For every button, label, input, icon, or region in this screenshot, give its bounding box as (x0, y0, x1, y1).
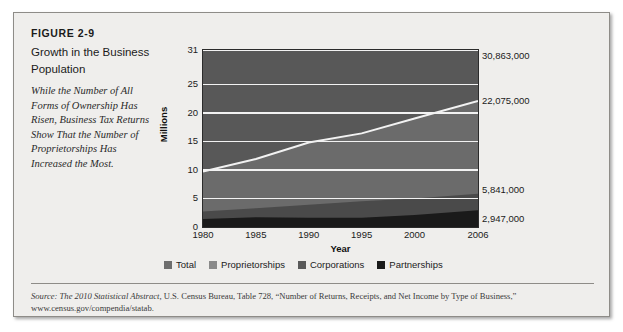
figure-number: FIGURE 2-9 (31, 27, 153, 39)
legend-swatch-icon (209, 261, 217, 269)
value-annotations: 30,863,00022,075,0005,841,0002,947,000 (482, 49, 592, 229)
gridline (203, 49, 478, 51)
x-axis-ticks: 198019851990199520002006 (202, 229, 479, 243)
legend-item[interactable]: Corporations (298, 259, 364, 270)
x-tick-label: 1995 (351, 229, 372, 240)
gridline (203, 84, 478, 86)
footer-divider (31, 283, 594, 284)
plot-area (202, 49, 479, 228)
y-tick-label: 15 (164, 135, 198, 146)
source-note: Source: The 2010 Statistical Abstract, U… (31, 290, 597, 314)
x-tick-label: 1980 (192, 229, 213, 240)
y-tick-label: 5 (164, 192, 198, 203)
x-axis-title: Year (202, 243, 479, 254)
legend-label: Partnerships (389, 259, 442, 270)
figure-subtitle: While the Number of All Forms of Ownersh… (31, 84, 153, 171)
gridline (203, 112, 478, 114)
y-tick-label: 31 (164, 44, 198, 55)
y-tick-label: 25 (164, 78, 198, 89)
value-annotation: 5,841,000 (482, 183, 524, 194)
gridline (203, 198, 478, 200)
value-annotation: 2,947,000 (482, 213, 524, 224)
x-tick-label: 1985 (245, 229, 266, 240)
x-tick-label: 2006 (467, 229, 488, 240)
x-tick-label: 1990 (298, 229, 319, 240)
y-axis-ticks: 051015202531 (164, 49, 198, 226)
legend-item[interactable]: Proprietorships (209, 259, 285, 270)
y-tick-label: 20 (164, 106, 198, 117)
legend-swatch-icon (298, 261, 306, 269)
legend-item[interactable]: Total (164, 259, 196, 270)
figure-title: Growth in the Business Population (31, 44, 153, 77)
legend-swatch-icon (164, 261, 172, 269)
value-annotation: 30,863,000 (482, 50, 530, 61)
legend-item[interactable]: Partnerships (377, 259, 442, 270)
gridline (203, 169, 478, 171)
chart-legend: TotalProprietorshipsCorporationsPartners… (164, 259, 584, 270)
value-annotation: 22,075,000 (482, 94, 530, 105)
y-tick-label: 10 (164, 163, 198, 174)
figure-card: FIGURE 2-9 Growth in the Business Popula… (13, 12, 610, 317)
legend-label: Corporations (310, 259, 364, 270)
chart-region: Millions 051015202531 198019851990199520… (164, 31, 596, 281)
proprietorships-line (203, 50, 478, 227)
legend-label: Total (176, 259, 196, 270)
source-lead: Source: The 2010 Statistical Abstract, (31, 291, 162, 301)
figure-caption-column: FIGURE 2-9 Growth in the Business Popula… (31, 27, 153, 171)
legend-swatch-icon (377, 261, 385, 269)
legend-label: Proprietorships (221, 259, 285, 270)
x-tick-label: 2000 (404, 229, 425, 240)
gridline (203, 141, 478, 143)
